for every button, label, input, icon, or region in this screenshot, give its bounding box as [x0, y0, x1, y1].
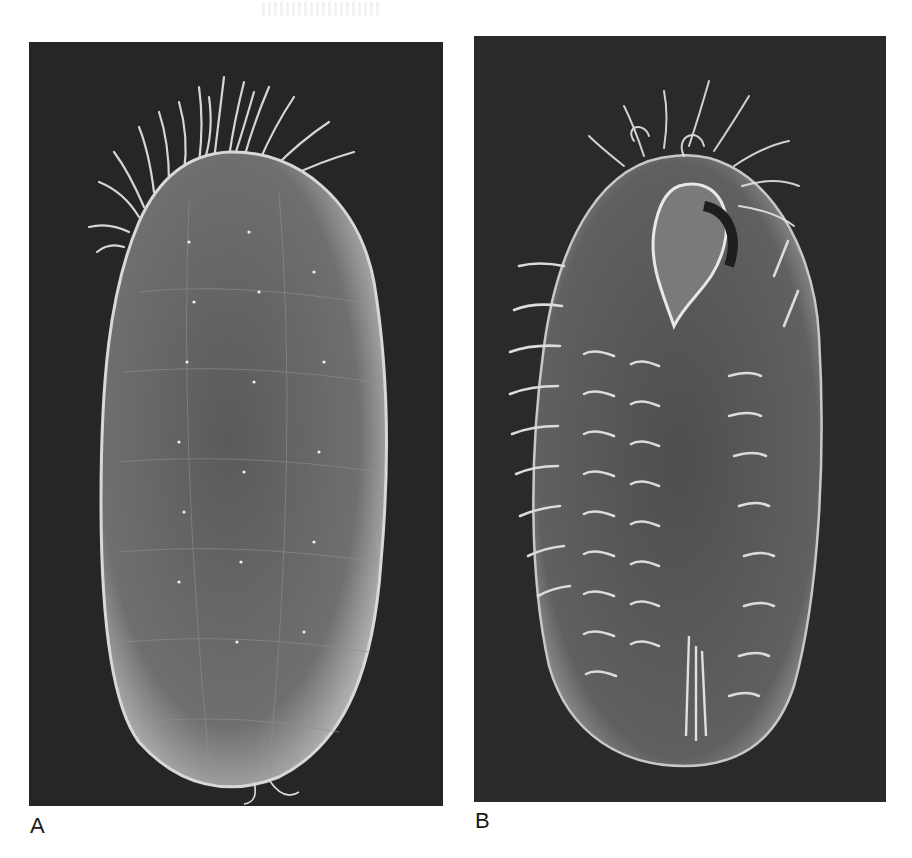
micrograph-panel-b	[474, 36, 886, 802]
bleed-through-text	[262, 2, 382, 16]
panel-label-b: B	[475, 810, 490, 832]
ciliate-image-a	[29, 42, 443, 806]
micrograph-panel-a	[29, 42, 443, 806]
ciliate-image-b	[474, 36, 886, 802]
panel-label-a: A	[30, 815, 45, 837]
